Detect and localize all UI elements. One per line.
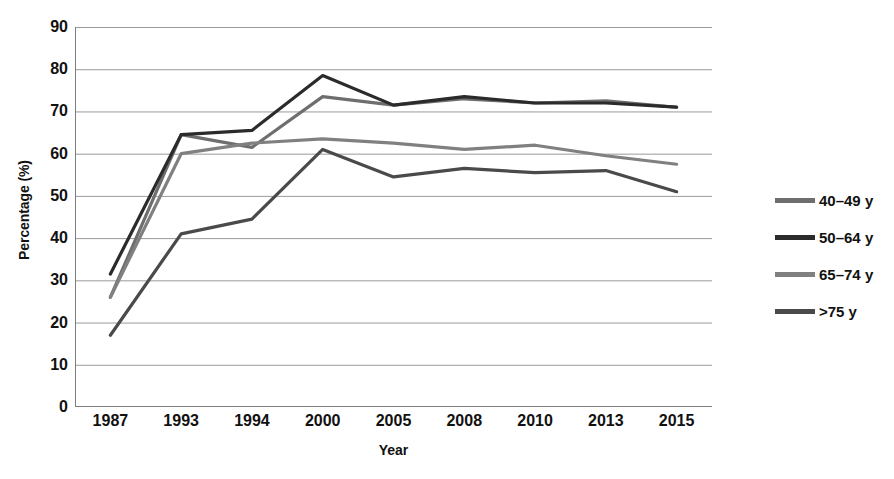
series-line-2	[110, 139, 676, 297]
legend-label: 65–74 y	[819, 266, 873, 283]
series-line-0	[110, 97, 676, 298]
legend-item[interactable]: 50–64 y	[775, 219, 893, 256]
y-tick-label: 90	[32, 19, 68, 35]
y-tick-label: 70	[32, 103, 68, 119]
x-axis-tick-labels: 198719931994200020052008201020132015	[75, 412, 712, 438]
y-tick-label: 50	[32, 188, 68, 204]
x-tick-label: 2000	[283, 412, 363, 430]
legend-swatch-icon	[775, 235, 815, 240]
series-line-3	[110, 149, 676, 335]
x-tick-label: 1994	[212, 412, 292, 430]
y-tick-label: 0	[32, 399, 68, 415]
x-tick-label: 2013	[566, 412, 646, 430]
y-tick-label: 10	[32, 357, 68, 373]
plot-svg	[75, 27, 712, 407]
axis-lines	[75, 27, 712, 407]
legend-item[interactable]: >75 y	[775, 293, 893, 330]
y-tick-label: 30	[32, 272, 68, 288]
chart-legend: 40–49 y50–64 y65–74 y>75 y	[775, 182, 893, 330]
gridlines	[75, 28, 712, 408]
x-tick-label: 1993	[141, 412, 221, 430]
x-axis-title: Year	[75, 442, 712, 458]
legend-label: 40–49 y	[819, 192, 873, 209]
y-tick-label: 60	[32, 146, 68, 162]
line-chart: Percentage (%) 9080706050403020100 19871…	[0, 0, 894, 479]
legend-label: 50–64 y	[819, 229, 873, 246]
y-tick-label: 20	[32, 315, 68, 331]
legend-label: >75 y	[819, 303, 857, 320]
plot-area	[75, 27, 712, 407]
x-tick-label: 2005	[354, 412, 434, 430]
legend-item[interactable]: 40–49 y	[775, 182, 893, 219]
legend-swatch-icon	[775, 272, 815, 277]
legend-swatch-icon	[775, 198, 815, 203]
legend-swatch-icon	[775, 309, 815, 314]
x-tick-label: 2015	[637, 412, 717, 430]
y-tick-label: 80	[32, 61, 68, 77]
x-tick-label: 1987	[70, 412, 150, 430]
x-tick-label: 2010	[495, 412, 575, 430]
y-axis-tick-labels: 9080706050403020100	[24, 0, 68, 479]
data-series-group	[110, 76, 676, 336]
y-tick-label: 40	[32, 230, 68, 246]
series-line-1	[110, 76, 676, 274]
legend-item[interactable]: 65–74 y	[775, 256, 893, 293]
x-tick-label: 2008	[424, 412, 504, 430]
